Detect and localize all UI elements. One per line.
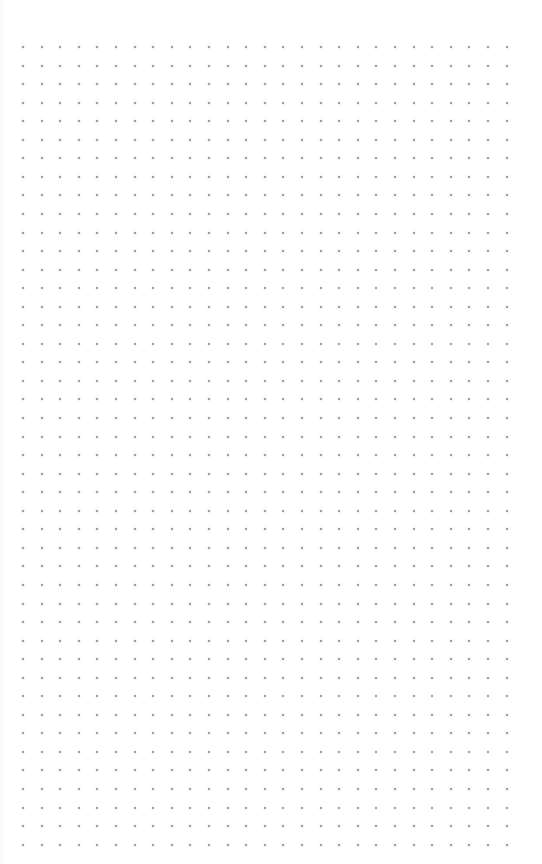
grid-dot [59, 269, 61, 271]
grid-dot [189, 250, 191, 252]
grid-dot [41, 398, 43, 400]
grid-dot [487, 398, 489, 400]
grid-dot [96, 844, 98, 846]
grid-dot [357, 213, 359, 215]
grid-dot [208, 157, 210, 159]
grid-dot [468, 361, 470, 363]
grid-dot [152, 751, 154, 753]
grid-dot [301, 825, 303, 827]
grid-dot [487, 213, 489, 215]
grid-dot [450, 398, 452, 400]
grid-dot [115, 120, 117, 122]
grid-dot [357, 732, 359, 734]
grid-dot [115, 269, 117, 271]
grid-dot [301, 807, 303, 809]
grid-dot [171, 640, 173, 642]
grid-dot [301, 120, 303, 122]
grid-dot [245, 157, 247, 159]
grid-dot [338, 139, 340, 141]
grid-dot [264, 491, 266, 493]
grid-dot [264, 436, 266, 438]
grid-dot [413, 844, 415, 846]
grid-dot [208, 102, 210, 104]
grid-dot [189, 807, 191, 809]
grid-dot [22, 343, 24, 345]
grid-dot [282, 528, 284, 530]
grid-dot [59, 194, 61, 196]
grid-dot [394, 658, 396, 660]
grid-dot [357, 46, 359, 48]
grid-dot [487, 176, 489, 178]
grid-dot [394, 361, 396, 363]
grid-dot [264, 621, 266, 623]
grid-dot [338, 825, 340, 827]
grid-dot [41, 788, 43, 790]
grid-dot [506, 454, 508, 456]
grid-dot [115, 732, 117, 734]
grid-dot [320, 714, 322, 716]
grid-dot [413, 454, 415, 456]
grid-dot [59, 250, 61, 252]
grid-dot [115, 603, 117, 605]
grid-dot [468, 621, 470, 623]
grid-dot [189, 343, 191, 345]
grid-dot [208, 139, 210, 141]
grid-dot [96, 157, 98, 159]
grid-dot [506, 46, 508, 48]
grid-dot [264, 139, 266, 141]
grid-dot [152, 732, 154, 734]
grid-dot [264, 825, 266, 827]
grid-dot [227, 287, 229, 289]
grid-dot [189, 213, 191, 215]
grid-dot [96, 695, 98, 697]
grid-dot [96, 380, 98, 382]
grid-dot [41, 417, 43, 419]
grid-dot [152, 603, 154, 605]
grid-dot [506, 157, 508, 159]
grid-dot [468, 547, 470, 549]
grid-dot [78, 677, 80, 679]
grid-dot [506, 565, 508, 567]
grid-dot [338, 436, 340, 438]
grid-dot [41, 769, 43, 771]
grid-dot [320, 417, 322, 419]
grid-dot [301, 269, 303, 271]
grid-dot [208, 213, 210, 215]
grid-dot [134, 528, 136, 530]
grid-dot [134, 213, 136, 215]
grid-dot [450, 751, 452, 753]
grid-dot [394, 603, 396, 605]
grid-dot [468, 269, 470, 271]
grid-dot [282, 491, 284, 493]
grid-dot [431, 640, 433, 642]
grid-dot [208, 732, 210, 734]
grid-dot [152, 65, 154, 67]
grid-dot [282, 65, 284, 67]
grid-dot [78, 454, 80, 456]
grid-dot [357, 640, 359, 642]
grid-dot [506, 102, 508, 104]
grid-dot [41, 250, 43, 252]
grid-dot [115, 714, 117, 716]
grid-dot [431, 232, 433, 234]
grid-dot [227, 677, 229, 679]
grid-dot [134, 46, 136, 48]
grid-dot [78, 491, 80, 493]
grid-dot [431, 621, 433, 623]
grid-dot [227, 528, 229, 530]
grid-dot [96, 714, 98, 716]
grid-dot [487, 324, 489, 326]
grid-dot [431, 287, 433, 289]
grid-dot [78, 361, 80, 363]
grid-dot [468, 83, 470, 85]
grid-dot [487, 343, 489, 345]
grid-dot [506, 232, 508, 234]
grid-dot [431, 825, 433, 827]
grid-dot [152, 788, 154, 790]
grid-dot [320, 621, 322, 623]
grid-dot [338, 844, 340, 846]
grid-dot [189, 788, 191, 790]
grid-dot [59, 732, 61, 734]
grid-dot [431, 250, 433, 252]
grid-dot [227, 46, 229, 48]
